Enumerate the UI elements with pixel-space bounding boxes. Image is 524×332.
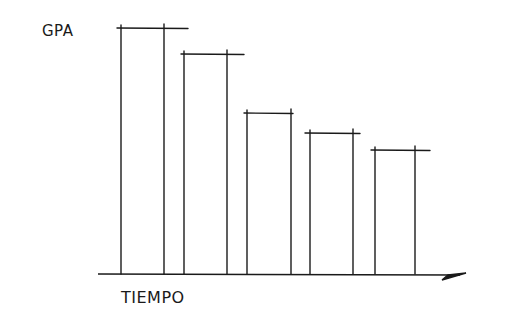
x-axis-label: TIEMPO <box>121 288 185 307</box>
bars-group <box>117 24 430 274</box>
bar-4 <box>305 129 360 274</box>
x-axis-line <box>98 274 460 275</box>
bar-top-edge <box>371 150 430 151</box>
bar-3 <box>244 109 293 274</box>
bar-5 <box>371 146 430 274</box>
bar-top-edge <box>117 28 188 29</box>
x-axis-arrow-icon <box>442 273 466 280</box>
x-axis <box>98 273 466 280</box>
y-axis-label: GPA <box>42 22 73 40</box>
bar-top-edge <box>181 54 244 55</box>
bar-top-edge <box>244 113 293 114</box>
bar-2 <box>181 50 244 274</box>
gpa-time-bar-chart <box>0 0 524 332</box>
bar-top-edge <box>305 133 360 134</box>
bar-1 <box>117 24 188 274</box>
